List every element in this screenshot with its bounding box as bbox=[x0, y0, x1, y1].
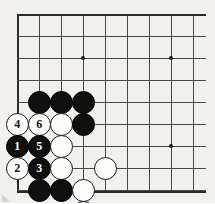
stone-move-number: 6 bbox=[36, 118, 42, 130]
stone-move-number: 3 bbox=[36, 162, 42, 174]
go-stone-white[interactable] bbox=[72, 201, 95, 204]
go-stone-black[interactable] bbox=[28, 91, 51, 114]
go-stone-white[interactable] bbox=[72, 179, 95, 202]
star-point bbox=[81, 56, 85, 60]
go-stone-black-3[interactable]: 3 bbox=[28, 157, 51, 180]
star-point bbox=[169, 144, 173, 148]
go-stone-black[interactable] bbox=[50, 179, 73, 202]
star-point bbox=[169, 56, 173, 60]
stone-move-number: 5 bbox=[36, 140, 42, 152]
stone-move-number: 4 bbox=[14, 118, 20, 130]
stone-move-number: 1 bbox=[14, 140, 20, 152]
go-diagram-container: 461523BA bbox=[0, 0, 215, 203]
grid-line-vertical bbox=[127, 14, 128, 192]
grid-line-vertical bbox=[171, 14, 172, 192]
go-board[interactable]: 461523BA bbox=[0, 0, 215, 203]
go-stone-white-4[interactable]: 4 bbox=[6, 113, 29, 136]
go-stone-black[interactable] bbox=[72, 91, 95, 114]
grid-line-horizontal bbox=[17, 80, 206, 81]
go-stone-white[interactable] bbox=[50, 113, 73, 136]
go-stone-black[interactable] bbox=[50, 91, 73, 114]
go-stone-black[interactable] bbox=[72, 113, 95, 136]
grid-line-horizontal bbox=[17, 14, 206, 16]
go-stone-white-6[interactable]: 6 bbox=[28, 113, 51, 136]
go-stone-white[interactable] bbox=[50, 135, 73, 158]
go-stone-black[interactable] bbox=[28, 179, 51, 202]
stone-move-number: 2 bbox=[14, 162, 20, 174]
grid-line-vertical bbox=[149, 14, 150, 192]
go-stone-white-2[interactable]: 2 bbox=[6, 157, 29, 180]
grid-line-horizontal bbox=[17, 36, 206, 37]
go-stone-white[interactable] bbox=[94, 157, 117, 180]
go-stone-white[interactable] bbox=[50, 157, 73, 180]
go-stone-black-1[interactable]: 1 bbox=[6, 135, 29, 158]
grid-line-vertical bbox=[193, 14, 194, 192]
grid-line-horizontal bbox=[17, 58, 206, 59]
go-stone-black-5[interactable]: 5 bbox=[28, 135, 51, 158]
